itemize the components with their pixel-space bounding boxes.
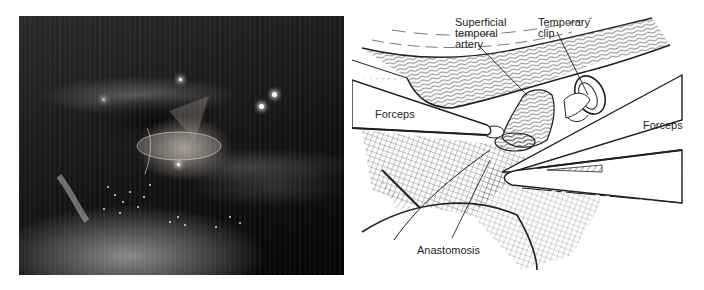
debris-speck (229, 216, 231, 218)
figure: Superficial temporal artery Temporary cl… (0, 0, 704, 290)
surgical-illustration: Superficial temporal artery Temporary cl… (352, 0, 704, 290)
debris-speck (129, 191, 131, 193)
illustration-drawing (352, 0, 704, 290)
debris-speck (119, 212, 121, 214)
light-reflection (177, 163, 180, 166)
debris-speck (184, 224, 186, 226)
debris-speck (122, 201, 124, 203)
debris-speck (169, 221, 171, 223)
debris-speck (103, 208, 105, 210)
label-forceps-left: Forceps (375, 109, 415, 120)
label-temporary-clip: Temporary clip (538, 17, 590, 39)
debris-speck (215, 226, 217, 228)
light-reflection (272, 92, 277, 97)
debris-speck (114, 194, 116, 196)
suture-loop (19, 16, 344, 275)
debris-speck (137, 206, 139, 208)
debris-speck (107, 186, 109, 188)
debris-speck (177, 216, 179, 218)
light-reflection (102, 98, 105, 101)
debris-speck (143, 196, 145, 198)
debris-speck (239, 222, 241, 224)
label-superficial-temporal-artery: Superficial temporal artery (455, 17, 506, 50)
surgical-photograph (19, 16, 344, 275)
label-anastomosis: Anastomosis (417, 245, 480, 256)
light-reflection (259, 104, 264, 109)
label-forceps-right: Forceps (643, 120, 683, 131)
debris-speck (149, 184, 151, 186)
light-reflection (179, 78, 182, 81)
